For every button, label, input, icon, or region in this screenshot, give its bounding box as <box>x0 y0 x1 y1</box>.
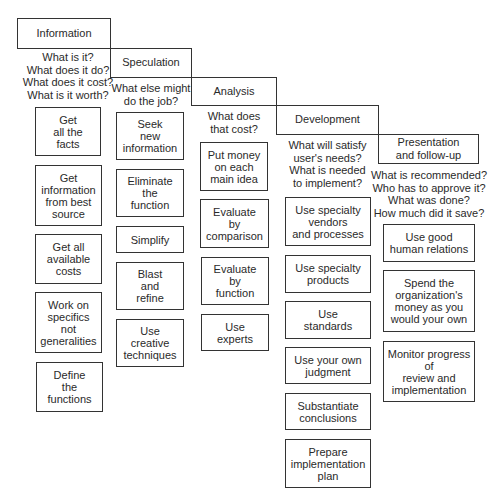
action-box: Use standards <box>285 301 371 339</box>
action-box: Simplify <box>116 226 184 253</box>
action-box: Monitor progress of review and implement… <box>383 341 475 402</box>
action-box: Evaluate by comparison <box>200 199 269 248</box>
action-box: Get information from best source <box>35 165 102 226</box>
action-box: Substantiate conclusions <box>285 393 371 430</box>
stage-header-analysis: Analysis <box>191 77 277 106</box>
action-box: Prepare implementation plan <box>285 439 371 488</box>
action-box: Get all available costs <box>35 234 102 284</box>
action-box: Define the functions <box>36 362 103 412</box>
stage-header-development: Development <box>276 105 379 135</box>
action-box: Evaluate by function <box>201 257 269 305</box>
action-box: Put money on each main idea <box>200 142 268 191</box>
action-box: Use good human relations <box>383 224 475 262</box>
action-box: Get all the facts <box>35 107 101 156</box>
action-box: Use creative techniques <box>116 319 184 367</box>
stage-header-presentation: Presentation and follow-up <box>378 134 479 164</box>
stage-questions-information: What is it? What does it do? What does i… <box>14 51 122 101</box>
action-box: Spend the organization's money as you wo… <box>383 270 475 332</box>
action-box: Use your own judgment <box>285 347 371 384</box>
stage-questions-presentation: What is recommended? Who has to approve … <box>370 169 488 219</box>
stage-header-speculation: Speculation <box>110 48 192 78</box>
stage-questions-speculation: What else might do the job? <box>110 82 192 107</box>
action-box: Work on specifics not generalities <box>35 292 102 353</box>
action-box: Seek new information <box>116 112 184 160</box>
action-box: Blast and refine <box>116 262 184 310</box>
action-box: Use specialty vendors and processes <box>285 197 371 246</box>
stage-header-information: Information <box>17 18 111 49</box>
action-box: Use specialty products <box>285 255 371 293</box>
stage-questions-analysis: What does that cost? <box>191 110 277 135</box>
action-box: Use experts <box>201 314 269 351</box>
stage-questions-development: What will satisfy user's needs? What is … <box>270 139 385 189</box>
action-box: Eliminate the function <box>116 169 184 217</box>
